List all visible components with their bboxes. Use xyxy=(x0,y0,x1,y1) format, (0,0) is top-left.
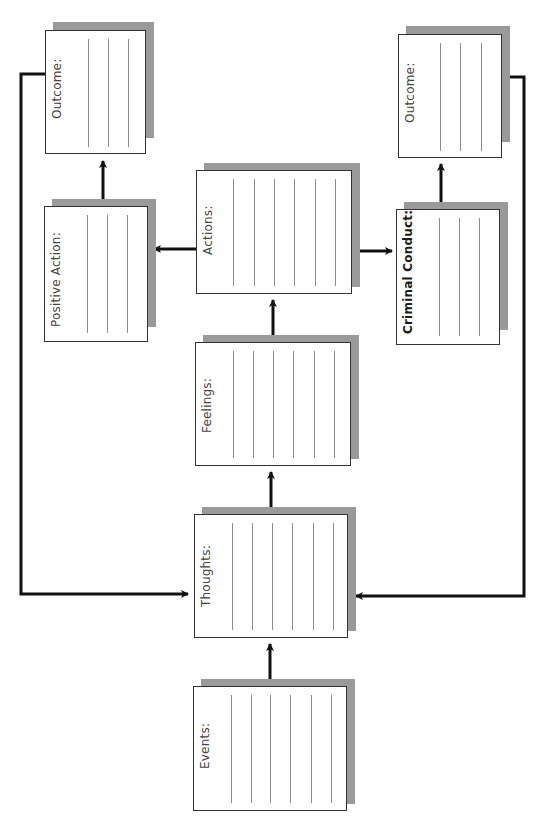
cognitive-behavior-flow-diagram: Events: Thoughts: Feelings: xyxy=(0,0,535,818)
box-events: Events: xyxy=(193,686,347,811)
writing-line xyxy=(333,523,334,630)
writing-line xyxy=(294,179,295,286)
writing-line xyxy=(251,695,252,803)
writing-line xyxy=(334,351,335,458)
box-label-outcome: Outcome: xyxy=(50,59,64,119)
writing-line xyxy=(315,179,316,286)
box-feelings: Feelings: xyxy=(195,342,351,466)
writing-line xyxy=(108,39,109,147)
box-thoughts: Thoughts: xyxy=(194,514,348,638)
writing-line xyxy=(460,43,461,151)
box-outcome-criminal: Outcome: xyxy=(398,34,502,158)
writing-line xyxy=(481,43,482,151)
writing-line xyxy=(273,351,274,458)
box-panel: Outcome: xyxy=(398,34,502,158)
box-panel: Feelings: xyxy=(195,342,351,466)
box-criminal-conduct: Criminal Conduct: xyxy=(396,209,500,345)
writing-line xyxy=(331,695,332,803)
box-positive-action: Positive Action: xyxy=(44,206,148,342)
box-panel: Criminal Conduct: xyxy=(396,209,500,345)
writing-line xyxy=(479,218,480,336)
writing-line xyxy=(87,215,88,333)
writing-line xyxy=(439,218,440,336)
writing-line xyxy=(127,215,128,333)
writing-line xyxy=(274,179,275,286)
box-label-actions: Actions: xyxy=(201,206,215,255)
writing-line xyxy=(311,695,312,803)
writing-line xyxy=(128,39,129,147)
writing-line xyxy=(292,523,293,630)
writing-line xyxy=(459,218,460,336)
writing-line xyxy=(290,695,291,803)
writing-line xyxy=(88,39,89,147)
box-label-thoughts: Thoughts: xyxy=(199,545,213,607)
box-panel: Actions: xyxy=(196,170,352,294)
writing-line xyxy=(252,523,253,630)
writing-line xyxy=(231,695,232,803)
box-actions: Actions: xyxy=(196,170,352,294)
box-panel: Events: xyxy=(193,686,347,811)
writing-line xyxy=(270,695,271,803)
writing-line xyxy=(314,351,315,458)
box-panel: Thoughts: xyxy=(194,514,348,638)
writing-line xyxy=(440,43,441,151)
writing-line xyxy=(293,351,294,458)
writing-line xyxy=(233,179,234,286)
writing-line xyxy=(272,523,273,630)
writing-line xyxy=(313,523,314,630)
writing-line xyxy=(107,215,108,333)
writing-line xyxy=(254,179,255,286)
writing-line xyxy=(232,523,233,630)
box-label-feelings: Feelings: xyxy=(200,378,214,433)
box-label-positive-action: Positive Action: xyxy=(49,232,63,327)
box-panel: Outcome: xyxy=(45,30,146,154)
box-outcome-positive: Outcome: xyxy=(45,30,146,154)
box-panel: Positive Action: xyxy=(44,206,148,342)
box-label-events: Events: xyxy=(198,723,212,769)
box-label-criminal-conduct: Criminal Conduct: xyxy=(401,210,415,334)
writing-line xyxy=(253,351,254,458)
writing-line xyxy=(335,179,336,286)
box-label-outcome: Outcome: xyxy=(403,63,417,123)
writing-line xyxy=(233,351,234,458)
